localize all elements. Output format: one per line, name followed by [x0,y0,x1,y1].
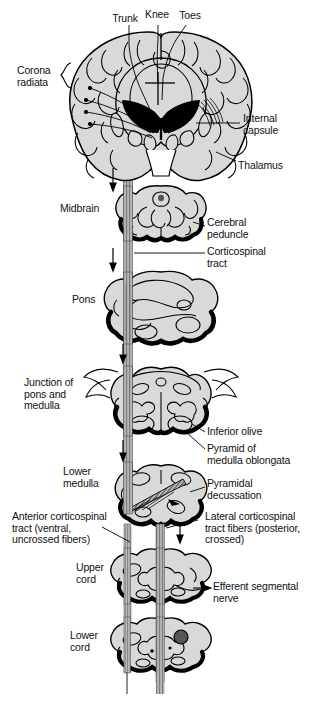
label-corona-radiata: Corona radiata [17,65,75,88]
label-pyramid-medulla-oblongata: Pyramid of medulla oblongata [207,443,307,466]
upper-spinal-cord-cross-section [111,548,211,604]
label-anterior-corticospinal-tract: Anterior corticospinal tract (ventral, u… [12,511,124,546]
label-upper-cord: Upper cord [76,562,122,585]
label-corticospinal-tract: Corticospinal tract [207,246,287,269]
pons-cross-section [104,271,218,344]
lower-spinal-cord-cross-section [111,617,211,673]
label-pyramidal-decussation: Pyramidal decussation [207,478,281,501]
label-junction-pons-medulla: Junction of pons and medulla [24,377,98,412]
label-cerebral-peduncle: Cerebral peduncle [207,217,279,240]
label-lower-cord: Lower cord [70,630,116,653]
label-toes: Toes [170,10,210,22]
label-efferent-segmental-nerve: Efferent segmental nerve [213,581,319,604]
label-internal-capsule: Internal capsule [243,113,313,136]
label-pons: Pons [72,294,116,306]
lower-medulla-cross-section [115,462,207,525]
label-thalamus: Thalamus [238,160,308,172]
label-midbrain: Midbrain [60,203,120,215]
midbrain-cross-section [116,186,206,241]
label-inferior-olive: Inferior olive [207,426,289,438]
label-lower-medulla: Lower medulla [63,466,115,489]
cerebral-hemispheres-coronal [70,25,252,181]
label-lateral-corticospinal-tract: Lateral corticospinal tract fibers (post… [205,511,321,546]
